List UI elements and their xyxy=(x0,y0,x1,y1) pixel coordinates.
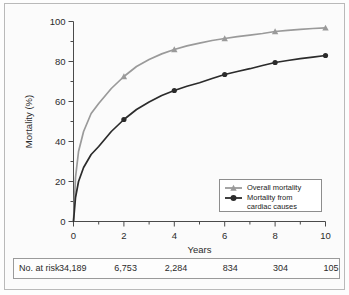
legend-label: Mortality from xyxy=(247,193,292,202)
chart-legend: Overall mortalityMortality fromcardiac c… xyxy=(219,179,322,212)
legend-key-circle xyxy=(231,195,237,201)
table-row: No. at risk 34,1896,7532,284834304105 xyxy=(14,259,339,278)
series-marker-circle xyxy=(172,88,177,93)
series-marker-circle xyxy=(222,72,227,77)
series-marker-circle xyxy=(273,60,278,65)
series-marker-circle xyxy=(323,53,328,58)
legend-label-continued: cardiac causes xyxy=(247,202,297,211)
x-axis-title: Years xyxy=(188,244,212,255)
risk-table-value: 304 xyxy=(273,263,288,273)
x-axis-tick-label: 6 xyxy=(222,230,227,241)
y-axis-tick-label: 40 xyxy=(55,136,66,147)
no-at-risk-table: No. at risk 34,1896,7532,284834304105 xyxy=(13,258,340,279)
y-axis-tick-label: 60 xyxy=(55,96,66,107)
x-axis-tick-label: 10 xyxy=(320,230,331,241)
x-axis-tick-label: 8 xyxy=(272,230,277,241)
risk-row-label: No. at risk xyxy=(19,263,60,273)
y-axis-tick-label: 100 xyxy=(50,16,66,27)
risk-table-value: 6,753 xyxy=(114,263,137,273)
y-axis-tick-label: 0 xyxy=(60,216,65,227)
y-axis-tick-label: 80 xyxy=(55,56,66,67)
series-marker-circle xyxy=(121,117,126,122)
legend-label: Overall mortality xyxy=(247,183,301,192)
mortality-line-chart: 0204060801000246810YearsMortality (%) xyxy=(0,0,349,295)
risk-table-value: 105 xyxy=(323,263,338,273)
risk-table-value: 834 xyxy=(223,263,238,273)
y-axis-title: Mortality (%) xyxy=(23,95,34,148)
x-axis-tick-label: 4 xyxy=(172,230,177,241)
risk-table-value: 2,284 xyxy=(165,263,188,273)
y-axis-tick-label: 20 xyxy=(55,176,66,187)
x-axis-tick-label: 0 xyxy=(71,230,76,241)
risk-table-value: 34,189 xyxy=(59,263,87,273)
figure-container: 0204060801000246810YearsMortality (%) Ov… xyxy=(0,0,349,295)
x-axis-tick-label: 2 xyxy=(121,230,126,241)
